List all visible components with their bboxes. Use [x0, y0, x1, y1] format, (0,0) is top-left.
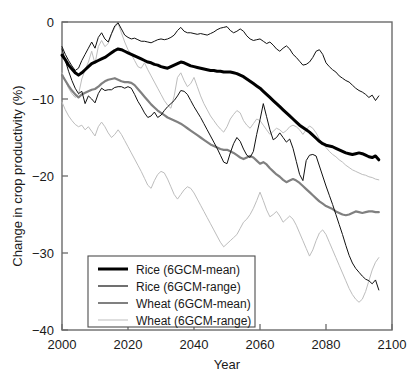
x-tick-label: 2020 [114, 337, 143, 352]
x-axis-title: Year [214, 357, 241, 372]
x-tick-label: 2080 [312, 337, 341, 352]
y-tick-label: 0 [47, 15, 54, 30]
x-tick-label: 2000 [48, 337, 77, 352]
chart-canvas: 0−10−20−30−40 200020202040206020802100 Y… [0, 0, 418, 387]
x-tick-label: 2060 [246, 337, 275, 352]
y-axis-title: Change in crop productivity (%) [10, 85, 25, 266]
y-tick-label: −40 [32, 323, 54, 338]
y-tick-label: −10 [32, 92, 54, 107]
legend-label: Wheat (6GCM-mean) [136, 297, 251, 311]
legend-label: Wheat (6GCM-range) [136, 314, 251, 328]
legend-label: Rice (6GCM-mean) [136, 263, 240, 277]
chart-legend: Rice (6GCM-mean)Rice (6GCM-range)Wheat (… [88, 256, 255, 328]
crop-productivity-chart-figure: 0−10−20−30−40 200020202040206020802100 Y… [0, 0, 418, 387]
y-tick-label: −20 [32, 169, 54, 184]
x-tick-label: 2040 [180, 337, 209, 352]
y-tick-label: −30 [32, 246, 54, 261]
legend-label: Rice (6GCM-range) [136, 280, 241, 294]
x-tick-label: 2100 [378, 337, 407, 352]
